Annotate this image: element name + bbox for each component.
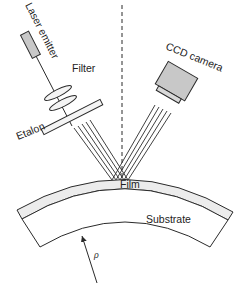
etalon-plate [41,99,103,134]
filter-label: Filter [72,62,96,74]
film-label: Film [120,178,140,190]
diagram-canvas: Laser emitter Filter Etalon CCD camera F… [0,0,245,290]
laser-emitter [21,31,41,58]
radius-label: ρ [93,249,99,260]
etalon-label: Etalon [14,120,46,142]
ccd-camera [153,61,198,105]
substrate-label: Substrate [146,213,191,225]
incident-beams [74,120,128,180]
